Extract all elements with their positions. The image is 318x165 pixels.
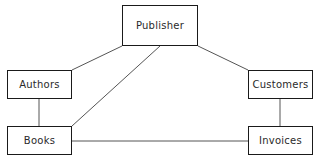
entity-node-books[interactable]: Books	[7, 126, 72, 155]
entity-node-authors[interactable]: Authors	[7, 70, 72, 99]
connector-publisher-authors	[72, 46, 122, 70]
entity-label-customers: Customers	[252, 80, 308, 90]
entity-node-invoices[interactable]: Invoices	[248, 126, 313, 155]
connector-publisher-books	[72, 46, 160, 126]
entity-label-invoices: Invoices	[259, 136, 302, 146]
connector-publisher-customers	[198, 46, 248, 70]
entity-node-customers[interactable]: Customers	[248, 70, 313, 99]
entity-node-publisher[interactable]: Publisher	[122, 5, 198, 46]
entity-label-books: Books	[24, 136, 55, 146]
entity-label-publisher: Publisher	[136, 21, 184, 31]
entity-relationship-diagram: Publisher Authors Customers Books Invoic…	[0, 0, 318, 165]
entity-label-authors: Authors	[19, 80, 60, 90]
